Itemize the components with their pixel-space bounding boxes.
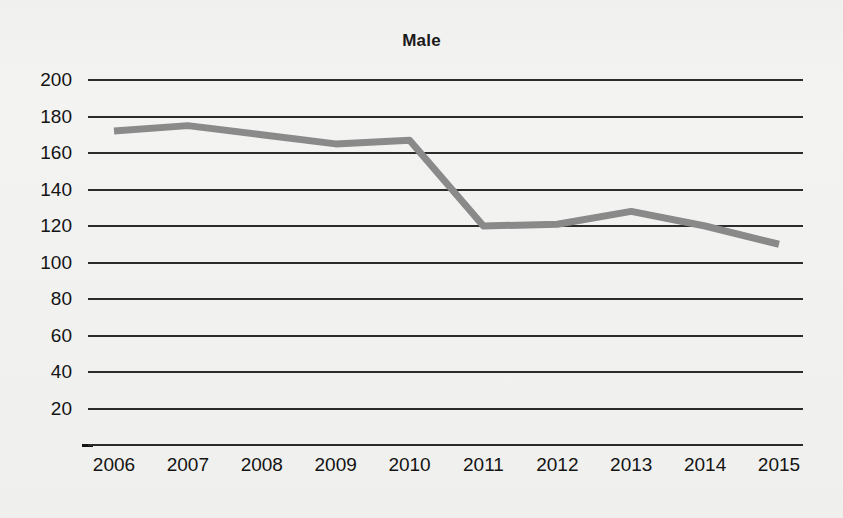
y-axis-tick-label: 60 [10,326,72,345]
x-axis-tick-label: 2010 [375,455,445,474]
x-axis-tick-label: 2009 [301,455,371,474]
y-axis-tick-label: 40 [10,362,72,381]
x-axis-tick-label: 2008 [227,455,297,474]
x-axis-tick-label: 2012 [522,455,592,474]
x-axis-tick-labels: 2006200720082009201020112012201320142015 [0,455,843,495]
series-line-male [88,80,803,445]
y-axis-tick-label: 200 [10,70,72,89]
y-axis-tick-label: 140 [10,180,72,199]
x-axis-tick-label: 2013 [596,455,666,474]
chart-figure: Male 20018016014012010080604020 20062007… [0,0,843,518]
x-axis-tick-label: 2007 [153,455,223,474]
y-axis-tick-label: 160 [10,143,72,162]
chart-title: Male [0,31,843,51]
y-axis-tick-label: 180 [10,107,72,126]
x-axis-tick-label: 2006 [79,455,149,474]
y-axis-tick-label: 20 [10,399,72,418]
y-axis-tick-label: 100 [10,253,72,272]
y-axis-tick-label: 120 [10,216,72,235]
y-axis-tick-labels: 20018016014012010080604020 [10,0,72,518]
plot-area [88,80,803,445]
x-axis-tick-label: 2015 [744,455,814,474]
y-axis-tick-label: 80 [10,289,72,308]
x-axis-tick-label: 2014 [670,455,740,474]
series-polyline [114,126,779,245]
x-axis-tick-label: 2011 [448,455,518,474]
